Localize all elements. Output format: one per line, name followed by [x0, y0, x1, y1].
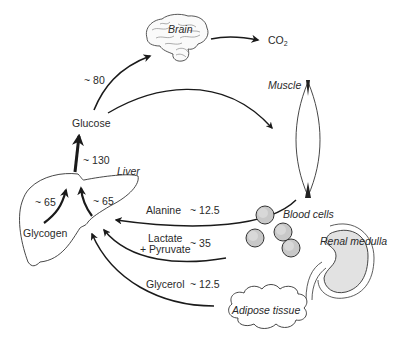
- alanine-value: ~ 12.5: [190, 205, 220, 216]
- alanine-label: Alanine: [146, 205, 181, 216]
- muscle-label: Muscle: [268, 80, 301, 91]
- muscle-icon: [296, 80, 320, 198]
- brain-label: Brain: [168, 24, 193, 35]
- liver-output-value: ~ 130: [83, 155, 110, 166]
- glycogen-label: Glycogen: [23, 228, 67, 239]
- liver-to-glucose-arrow: [75, 136, 79, 172]
- brain-icon: [146, 14, 208, 61]
- glucose-metabolism-diagram: Brain CO2 Muscle ~ 80 Glucose ~ 130 Live…: [0, 0, 401, 346]
- lactate-label: Lactate: [148, 233, 182, 244]
- co2-label: CO2: [268, 35, 288, 47]
- glycogen-flow-value: ~ 65: [35, 197, 56, 208]
- glucose-label: Glucose: [72, 118, 111, 129]
- brain-flow-value: ~ 80: [84, 75, 105, 86]
- lactate-pyruvate-value: ~ 35: [190, 238, 211, 249]
- renal-medulla-label: Renal medulla: [320, 236, 387, 247]
- diagram-graphics: [0, 0, 401, 346]
- glycerol-label: Glycerol: [146, 279, 185, 290]
- liver-outline: [20, 174, 139, 266]
- brain-to-co2-arrow: [211, 37, 258, 40]
- pyruvate-label: + Pyruvate: [140, 244, 191, 255]
- glucose-to-muscle-arrow: [108, 89, 272, 128]
- co2-subscript: 2: [284, 40, 288, 47]
- adipose-tissue-label: Adipose tissue: [232, 305, 300, 316]
- blood-cells-label: Blood cells: [283, 209, 334, 220]
- gluconeogenesis-flow-value: ~ 65: [93, 196, 114, 207]
- glycerol-value: ~ 12.5: [190, 279, 220, 290]
- co2-text: CO: [268, 34, 284, 46]
- liver-label: Liver: [117, 166, 140, 177]
